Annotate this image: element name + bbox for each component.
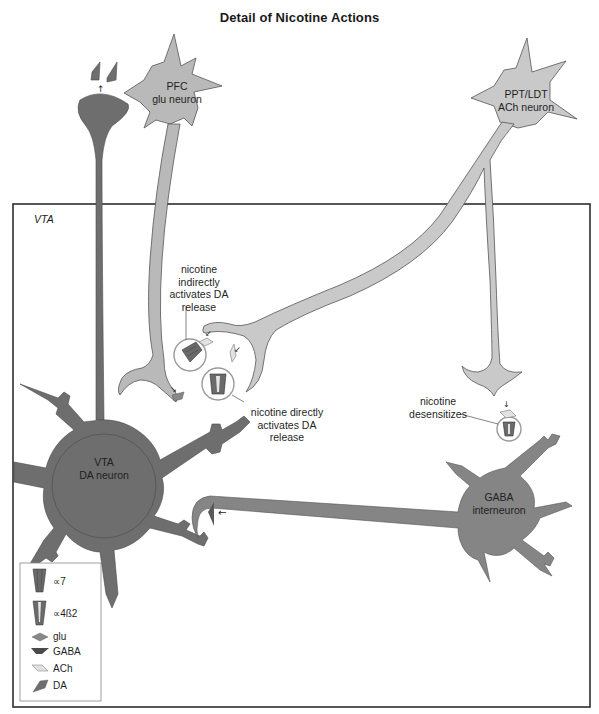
direct-line2: activates DA — [243, 419, 331, 432]
indirect-line3: activates DA — [166, 288, 232, 301]
glu-arrow: ↘ — [170, 385, 177, 394]
gaba-line1: GABA — [469, 491, 529, 504]
direct-line3: release — [243, 431, 331, 444]
legend-label-gaba: GABA — [53, 646, 81, 658]
page-title: Detail of Nicotine Actions — [0, 10, 599, 25]
alpha4beta2-receptor-gaba — [503, 422, 515, 436]
gaba-line2: interneuron — [469, 504, 529, 517]
pfc-neuron-label: PFC glu neuron — [151, 80, 203, 105]
vta-da-neuron-label: VTA DA neuron — [74, 456, 134, 481]
desensitizes-line2: desensitizes — [404, 408, 472, 421]
ppt-line1: PPT/LDT — [496, 88, 556, 101]
indirect-line2: indirectly — [166, 276, 232, 289]
vta-region-label: VTA — [34, 213, 54, 225]
ach-arrow-2: ↙ — [234, 345, 241, 354]
alpha4beta2-receptor-vta — [210, 374, 226, 394]
ppt-line2: ACh neuron — [496, 101, 556, 114]
desensitizes-annotation: nicotine desensitizes — [404, 395, 472, 420]
gaba-neuron-label: GABA interneuron — [469, 491, 529, 516]
pfc-line1: PFC — [151, 80, 203, 93]
vta-line2: DA neuron — [74, 469, 134, 482]
gaba-arrow: ← — [218, 507, 226, 518]
indirect-annotation: nicotine indirectly activates DA release — [166, 263, 232, 313]
legend-label-alpha7: ∝7 — [53, 576, 66, 588]
direct-line1: nicotine directly — [243, 406, 331, 419]
ppt-ldt-neuron-label: PPT/LDT ACh neuron — [496, 88, 556, 113]
ach-arrow-1: ↙ — [205, 329, 212, 338]
indirect-line4: release — [166, 301, 232, 314]
da-release-arrow: ↑ — [97, 84, 105, 94]
legend-label-da: DA — [53, 680, 67, 692]
legend-label-glu: glu — [53, 631, 66, 643]
indirect-line1: nicotine — [166, 263, 232, 276]
pfc-line2: glu neuron — [151, 93, 203, 106]
direct-annotation: nicotine directly activates DA release — [243, 406, 331, 444]
legend-label-alpha4beta2: ∝4ß2 — [53, 608, 77, 620]
vta-line1: VTA — [74, 456, 134, 469]
desensitizes-line1: nicotine — [404, 395, 472, 408]
ach-arrow-3: ↓ — [503, 400, 510, 409]
legend-label-ach: ACh — [53, 663, 72, 675]
